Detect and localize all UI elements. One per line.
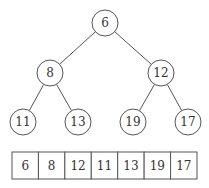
tree-edge — [167, 84, 181, 110]
array-cell-value: 6 — [21, 159, 29, 173]
tree-node: 19 — [120, 109, 146, 135]
tree-edge — [29, 84, 43, 110]
array-cell-value: 12 — [70, 159, 85, 173]
array-cell-value: 8 — [48, 159, 56, 173]
tree-node: 13 — [65, 109, 91, 135]
node-value: 11 — [15, 115, 30, 129]
tree-node: 17 — [175, 109, 201, 135]
heap-array: 681211131917 — [12, 152, 197, 179]
tree-nodes: 681211131917 — [10, 10, 201, 135]
tree-edge — [115, 32, 152, 65]
node-value: 13 — [70, 115, 85, 129]
node-value: 17 — [180, 115, 195, 129]
array-cell: 19 — [144, 152, 170, 179]
array-cell: 6 — [12, 152, 38, 179]
tree-node: 12 — [148, 60, 174, 86]
node-value: 12 — [153, 66, 168, 80]
heap-diagram: 681211131917 681211131917 — [0, 0, 209, 188]
array-cell: 12 — [65, 152, 91, 179]
node-value: 8 — [46, 66, 54, 80]
tree-edge — [139, 84, 154, 110]
tree-node: 8 — [37, 60, 63, 86]
array-cell: 11 — [91, 152, 117, 179]
array-cell: 8 — [38, 152, 64, 179]
tree-edge — [60, 32, 96, 65]
array-cell: 17 — [171, 152, 197, 179]
node-value: 19 — [125, 115, 140, 129]
array-cell-value: 13 — [123, 159, 138, 173]
array-cell-value: 11 — [97, 159, 112, 173]
array-cell-value: 17 — [176, 159, 191, 173]
tree-node: 11 — [10, 109, 36, 135]
tree-edge — [56, 84, 71, 110]
tree-node: 6 — [92, 10, 118, 36]
array-cell-value: 19 — [150, 159, 165, 173]
array-cell: 13 — [118, 152, 144, 179]
node-value: 6 — [101, 16, 109, 30]
